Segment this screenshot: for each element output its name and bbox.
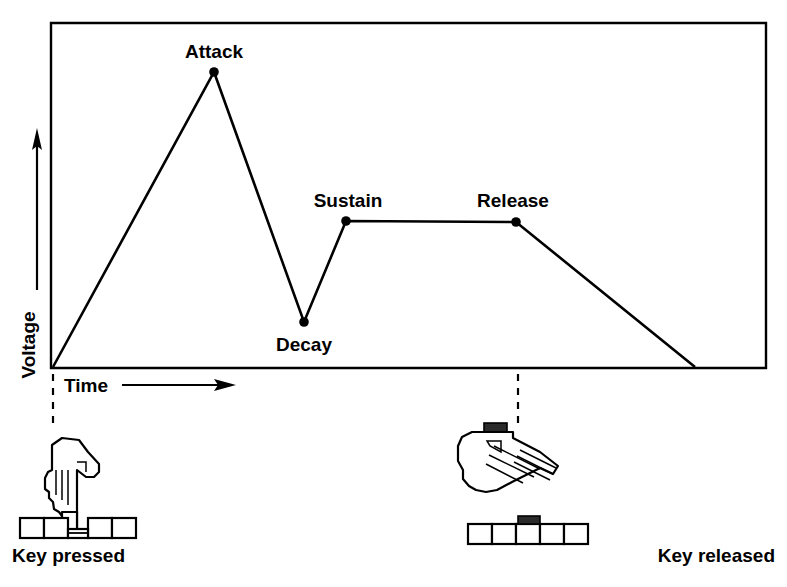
- plot-frame: [51, 23, 766, 368]
- voltage-axis-group: Voltage: [18, 128, 42, 379]
- decay-label: Decay: [276, 334, 332, 355]
- sustain-point-marker: [341, 216, 351, 226]
- attack-point-marker: [209, 67, 219, 77]
- sustain-label: Sustain: [314, 190, 383, 211]
- time-axis-group: Time: [64, 375, 236, 396]
- key-pressed-caption: Key pressed: [12, 545, 125, 566]
- voltage-axis-label: Voltage: [18, 311, 39, 378]
- keyboard-keys-icon: [468, 516, 588, 544]
- decay-point-marker: [299, 317, 309, 327]
- attack-label: Attack: [185, 41, 244, 62]
- envelope-curve: [53, 72, 695, 367]
- adsr-envelope-figure: Attack Decay Sustain Release Voltage Tim…: [0, 0, 787, 587]
- key-released-caption: Key released: [658, 545, 775, 566]
- adsr-diagram-canvas: Attack Decay Sustain Release Voltage Tim…: [0, 0, 787, 587]
- hand-releasing-key-icon: [458, 423, 558, 492]
- release-point-marker: [511, 217, 521, 227]
- time-axis-label: Time: [64, 375, 108, 396]
- release-label: Release: [477, 190, 549, 211]
